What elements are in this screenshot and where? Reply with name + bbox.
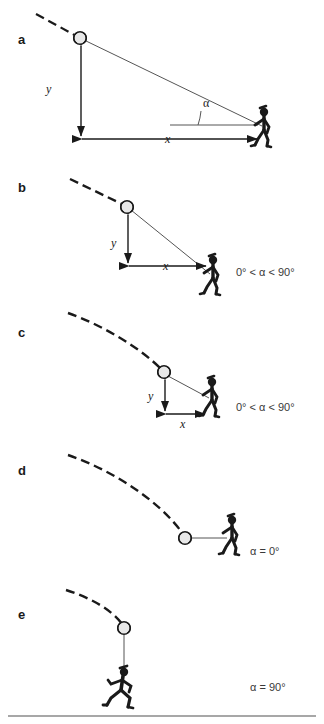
alpha-label-a: α	[203, 96, 209, 111]
panel-label-d: d	[18, 463, 26, 478]
sight-line-a	[84, 40, 262, 126]
runner-figure-a	[251, 106, 271, 147]
ball-icon-d	[179, 532, 192, 544]
ball-icon-c	[158, 366, 171, 378]
y-axis-label-a: y	[46, 82, 51, 97]
panel-label-c: c	[18, 325, 25, 340]
ball-icon-b	[121, 201, 134, 213]
x-axis-label-a: x	[165, 132, 170, 147]
runner-figure-e	[103, 666, 133, 708]
runner-figure-b	[200, 254, 220, 295]
annotation-e: α = 90°	[250, 681, 286, 693]
trajectory-dashed-d	[68, 455, 183, 534]
figure-canvas	[0, 0, 324, 724]
trajectory-dashed-b	[70, 179, 126, 206]
panel-label-a: a	[18, 32, 25, 47]
annotation-b: 0° < α < 90°	[236, 266, 295, 278]
y-axis-label-c: y	[148, 389, 153, 404]
alpha-arc-a	[198, 111, 201, 125]
y-axis-label-b: y	[111, 236, 116, 251]
trajectory-dashed-c	[68, 313, 162, 370]
x-axis-label-b: x	[163, 259, 168, 274]
ball-icon-e	[118, 622, 131, 634]
runner-figure-d	[219, 514, 239, 555]
trajectory-dashed-e	[66, 590, 122, 624]
panel-e-graphics	[66, 590, 133, 708]
annotation-c: 0° < α < 90°	[236, 401, 295, 413]
runner-figure-c	[199, 376, 219, 417]
trajectory-dashed-a	[36, 14, 80, 38]
trajectory-figure: a b c d e y x α y x 0° < α < 90° y x 0° …	[0, 0, 324, 724]
ball-icon-a	[74, 32, 87, 44]
panel-d-graphics	[68, 455, 239, 555]
panel-c-graphics	[68, 313, 219, 417]
sight-line-b	[131, 210, 210, 274]
panel-label-b: b	[18, 180, 26, 195]
panel-label-e: e	[18, 607, 25, 622]
annotation-d: α = 0°	[250, 545, 279, 557]
x-axis-label-c: x	[180, 417, 185, 432]
panel-a-graphics	[36, 14, 271, 147]
panel-b-graphics	[70, 179, 220, 295]
